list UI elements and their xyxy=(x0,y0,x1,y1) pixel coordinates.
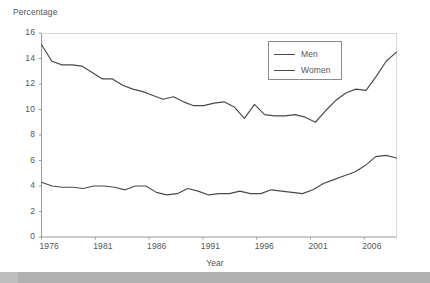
y-tick-label: 12 xyxy=(13,78,35,88)
x-tick-label: 1976 xyxy=(40,241,59,251)
y-tick-label: 6 xyxy=(13,155,35,165)
y-tick-label: 16 xyxy=(13,27,35,37)
legend-label-men: Men xyxy=(301,50,318,59)
legend-line-swatch-men xyxy=(274,54,295,55)
y-tick-label: 10 xyxy=(13,104,35,114)
legend-line-swatch-women xyxy=(274,70,295,71)
x-tick-label: 2006 xyxy=(362,241,381,251)
series-line-men xyxy=(42,44,397,122)
x-tick-label: 1986 xyxy=(147,241,166,251)
y-tick-label: 8 xyxy=(13,129,35,139)
footer-bar xyxy=(0,272,430,283)
y-tick-label: 4 xyxy=(13,180,35,190)
legend-item-women: Women xyxy=(274,63,331,77)
legend-label-women: Women xyxy=(301,66,331,75)
y-tick-label: 14 xyxy=(13,53,35,63)
x-tick-label: 1991 xyxy=(201,241,220,251)
y-tick-label: 0 xyxy=(13,231,35,241)
x-tick-label: 1996 xyxy=(255,241,274,251)
footer-bar-segment xyxy=(0,272,430,283)
legend-item-men: Men xyxy=(274,47,318,61)
y-tick-label: 2 xyxy=(13,206,35,216)
series-line-women xyxy=(42,155,397,195)
x-tick-label: 1981 xyxy=(93,241,112,251)
plot-frame xyxy=(42,33,398,237)
chart-figure: Percentage 0246810121416 197619811986199… xyxy=(0,0,430,283)
x-axis-label: Year xyxy=(0,258,430,268)
x-tick-label: 2001 xyxy=(308,241,327,251)
chart-legend: Men Women xyxy=(268,41,342,80)
